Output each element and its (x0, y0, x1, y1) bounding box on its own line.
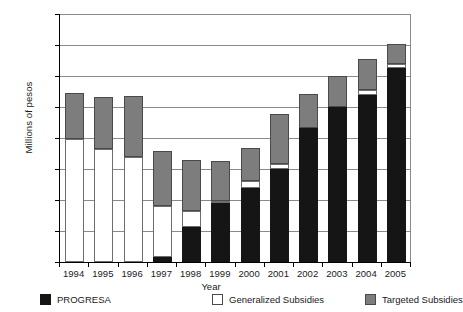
bar-segment-targeted[interactable] (241, 148, 260, 181)
x-axis-tick-mark (59, 263, 60, 267)
bar-segment-targeted[interactable] (387, 44, 406, 64)
bar-segment-progresa[interactable] (358, 95, 377, 262)
legend-label: Targeted Subsidies (382, 294, 463, 305)
y-axis-tick-mark (55, 231, 59, 232)
bar-segment-generalized[interactable] (124, 157, 143, 262)
y-axis-tick-mark (55, 138, 59, 139)
x-axis-tick-mark (322, 263, 323, 267)
bar-segment-progresa[interactable] (270, 169, 289, 262)
bar-group[interactable] (153, 14, 172, 262)
chart-legend: PROGRESAGeneralized SubsidiesTargeted Su… (40, 294, 410, 310)
bar-segment-targeted[interactable] (358, 59, 377, 90)
bar-segment-generalized[interactable] (270, 164, 289, 169)
bar-segment-progresa[interactable] (241, 188, 260, 262)
bar-segment-targeted[interactable] (94, 97, 113, 148)
bar-group[interactable] (241, 14, 260, 262)
x-axis-tick-mark (235, 263, 236, 267)
legend-swatch-icon (40, 294, 51, 305)
x-axis-tick-label: 2005 (375, 268, 415, 279)
x-axis-tick-mark (205, 263, 206, 267)
bar-segment-progresa[interactable] (182, 227, 201, 262)
bar-segment-targeted[interactable] (211, 161, 230, 201)
bar-segment-progresa[interactable] (387, 68, 406, 262)
y-axis-title: Millions of pesos (23, 43, 34, 193)
bar-segment-generalized[interactable] (241, 181, 260, 187)
bar-segment-targeted[interactable] (270, 114, 289, 164)
x-axis-tick-mark (410, 263, 411, 267)
bar-segment-generalized[interactable] (387, 64, 406, 68)
bar-group[interactable] (124, 14, 143, 262)
bar-segment-generalized[interactable] (65, 139, 84, 262)
bar-segment-generalized[interactable] (211, 201, 230, 203)
plot-area (59, 14, 411, 263)
y-axis-tick-mark (55, 14, 59, 15)
x-axis-tick-mark (381, 263, 382, 267)
bar-group[interactable] (299, 14, 318, 262)
legend-item-generalized[interactable]: Generalized Subsidies (212, 294, 324, 305)
legend-label: PROGRESA (57, 294, 111, 305)
bar-group[interactable] (182, 14, 201, 262)
y-axis-tick-mark (55, 45, 59, 46)
legend-item-progresa[interactable]: PROGRESA (40, 294, 111, 305)
bar-group[interactable] (270, 14, 289, 262)
y-axis-tick-mark (55, 200, 59, 201)
legend-item-targeted[interactable]: Targeted Subsidies (365, 294, 463, 305)
x-axis-tick-mark (264, 263, 265, 267)
bar-segment-targeted[interactable] (299, 94, 318, 128)
bar-group[interactable] (387, 14, 406, 262)
x-axis-tick-mark (88, 263, 89, 267)
x-axis-tick-mark (352, 263, 353, 267)
y-axis-tick-mark (55, 76, 59, 77)
bar-group[interactable] (358, 14, 377, 262)
bar-segment-targeted[interactable] (124, 96, 143, 157)
bar-group[interactable] (328, 14, 347, 262)
bar-segment-generalized[interactable] (94, 149, 113, 262)
x-axis-tick-mark (147, 263, 148, 267)
bar-group[interactable] (211, 14, 230, 262)
y-axis-tick-mark (55, 169, 59, 170)
bar-segment-targeted[interactable] (153, 151, 172, 206)
bar-segment-generalized[interactable] (358, 90, 377, 95)
bar-group[interactable] (65, 14, 84, 262)
bar-series-container (60, 14, 411, 262)
legend-label: Generalized Subsidies (229, 294, 324, 305)
bar-segment-targeted[interactable] (182, 160, 201, 211)
bar-segment-generalized[interactable] (182, 211, 201, 227)
y-axis-tick-mark (55, 107, 59, 108)
x-axis-title: Year (0, 281, 422, 292)
bar-segment-progresa[interactable] (211, 203, 230, 262)
bar-segment-targeted[interactable] (328, 76, 347, 107)
x-axis-tick-mark (118, 263, 119, 267)
x-axis-tick-mark (293, 263, 294, 267)
bar-segment-progresa[interactable] (328, 107, 347, 262)
bar-segment-generalized[interactable] (153, 206, 172, 257)
bar-segment-progresa[interactable] (299, 128, 318, 262)
bar-group[interactable] (94, 14, 113, 262)
bar-segment-progresa[interactable] (153, 257, 172, 262)
legend-swatch-icon (212, 294, 223, 305)
legend-swatch-icon (365, 294, 376, 305)
x-axis-ticks: 1994199519961997199819992000200120022003… (59, 263, 410, 283)
x-axis-tick-mark (176, 263, 177, 267)
bar-segment-targeted[interactable] (65, 93, 84, 139)
